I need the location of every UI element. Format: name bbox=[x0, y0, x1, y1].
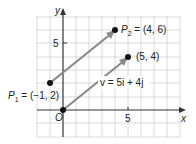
vector-diagram: y x 5 5 O P2 = (4, 6) (5, 4) P1 = (−1, 2… bbox=[0, 0, 196, 144]
point-p1-label: P1 = (−1, 2) bbox=[8, 90, 59, 103]
point-q-label: (5, 4) bbox=[136, 51, 159, 62]
point-q bbox=[125, 54, 131, 60]
vector-label: v = 5i + 4j bbox=[100, 77, 143, 88]
y-axis-label: y bbox=[54, 5, 61, 16]
origin-label: O bbox=[55, 112, 63, 123]
y-axis-arrow-icon bbox=[60, 8, 66, 15]
point-p1 bbox=[47, 80, 53, 86]
x-tick-label: 5 bbox=[125, 113, 131, 124]
vector-p1-p2 bbox=[50, 33, 112, 83]
y-tick-label: 5 bbox=[53, 38, 59, 49]
point-p2 bbox=[112, 27, 118, 33]
vectors bbox=[50, 33, 125, 110]
x-axis-label: x bbox=[180, 113, 187, 124]
